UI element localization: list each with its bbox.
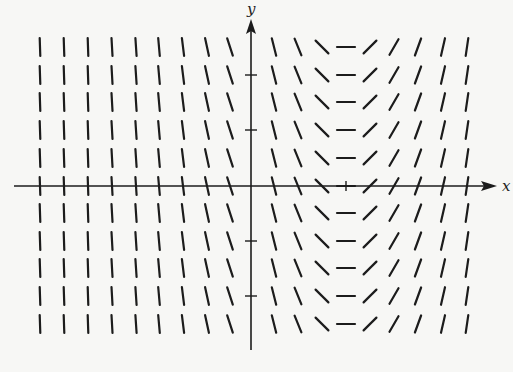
slope-segment [441, 287, 445, 305]
slope-segment [295, 67, 302, 84]
slope-segment [466, 259, 469, 277]
slope-segment [272, 315, 276, 332]
slope-segment [158, 66, 160, 84]
x-axis-label: x [502, 177, 511, 195]
slope-segment [205, 149, 209, 167]
slope-segment [316, 41, 329, 54]
slope-segment [205, 93, 209, 111]
slope-segment [441, 259, 445, 277]
slope-segment [364, 124, 377, 137]
slope-segment [390, 39, 399, 55]
slope-segment [64, 149, 65, 167]
slope-segment [64, 121, 65, 139]
slope-segment [135, 204, 136, 222]
slope-segment [466, 287, 469, 305]
slope-segment [112, 315, 113, 333]
slope-segment [466, 66, 469, 84]
slope-segment [316, 290, 329, 303]
slope-segment [364, 262, 377, 275]
slope-segment [135, 315, 136, 333]
slope-segment [40, 287, 41, 305]
slope-segment [40, 232, 41, 250]
slope-segment [295, 205, 302, 222]
slope-segment [205, 315, 209, 333]
slope-segment [182, 149, 184, 167]
slope-segment [466, 315, 469, 333]
slope-segment [390, 233, 399, 249]
slope-segment [441, 204, 445, 222]
slope-segment [40, 38, 41, 56]
slope-segment [227, 93, 233, 110]
slope-segment [441, 121, 445, 139]
slope-segment [364, 41, 377, 54]
slope-segment [415, 233, 421, 250]
slope-segment [112, 204, 113, 222]
slope-segment [40, 315, 41, 333]
slope-segment [227, 232, 233, 249]
slope-segment [64, 232, 65, 250]
slope-segment [316, 235, 329, 248]
slope-segment [158, 204, 160, 222]
slope-segment [390, 122, 399, 138]
slope-segment [88, 121, 89, 139]
slope-segment [295, 260, 302, 277]
slope-segment [415, 122, 421, 139]
slope-segment [364, 152, 377, 165]
slope-segment [390, 94, 399, 110]
slope-segment [135, 287, 136, 305]
slope-segment [205, 287, 209, 305]
slope-segment [64, 38, 65, 56]
slope-segment [316, 262, 329, 275]
slope-segment [205, 121, 209, 139]
slope-segment [227, 66, 233, 83]
slope-segment [390, 260, 399, 276]
slope-segment [272, 232, 276, 249]
slope-segment [64, 93, 65, 111]
slope-segment [182, 93, 184, 111]
slope-segment [316, 207, 329, 220]
slope-segment [390, 316, 399, 332]
slope-segment [135, 149, 136, 167]
slope-field-diagram: x y [0, 0, 513, 372]
slope-segment [64, 287, 65, 305]
y-axis [246, 19, 256, 350]
slope-segment [205, 232, 209, 250]
slope-segment [316, 124, 329, 137]
slope-segment [88, 38, 89, 56]
slope-segment [390, 205, 399, 221]
slope-segment [441, 232, 445, 250]
slope-segment [135, 259, 136, 277]
slope-segment [40, 93, 41, 111]
slope-segment [415, 260, 421, 277]
slope-segment [182, 232, 184, 250]
slope-segment [40, 66, 41, 84]
slope-segment [227, 38, 233, 55]
slope-segment [112, 121, 113, 139]
slope-segment [272, 121, 276, 138]
slope-segment [64, 66, 65, 84]
slope-segment [205, 66, 209, 84]
slope-segment [182, 204, 184, 222]
slope-segment [88, 66, 89, 84]
slope-segment [135, 121, 136, 139]
slope-segment [112, 259, 113, 277]
slope-segment [158, 93, 160, 111]
slope-segment [227, 315, 233, 332]
slope-segment [112, 66, 113, 84]
slope-segment [415, 288, 421, 305]
slope-segment [182, 259, 184, 277]
slope-segment [272, 287, 276, 304]
slope-segment [466, 121, 469, 139]
slope-segment [390, 67, 399, 83]
slope-segment [415, 94, 421, 111]
slope-segment [112, 93, 113, 111]
slope-segment [135, 66, 136, 84]
slope-segment [112, 38, 113, 56]
slope-segment [227, 149, 233, 166]
slope-segment [272, 204, 276, 221]
x-axis [14, 181, 497, 191]
slope-segment [205, 204, 209, 222]
slope-segment [364, 235, 377, 248]
slope-segment [182, 38, 184, 56]
slope-segment [40, 121, 41, 139]
